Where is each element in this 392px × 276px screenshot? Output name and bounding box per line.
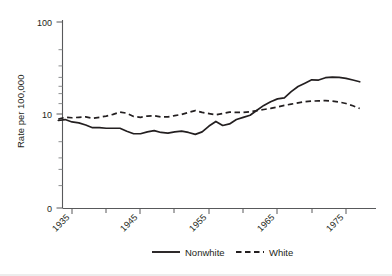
x-axis-ticks (72, 209, 346, 215)
legend-label-white: White (269, 247, 293, 258)
chart-plot-area: 100 10 0 1935 1945 1955 1965 1975 Rate p… (0, 0, 392, 276)
x-tick-label-1965: 1965 (255, 212, 276, 233)
x-tick-label-1945: 1945 (118, 212, 139, 233)
y-tick-label-0: 0 (47, 204, 52, 214)
x-tick-label-1955: 1955 (187, 212, 208, 233)
y-axis-ticks (57, 22, 63, 208)
legend-label-nonwhite: Nonwhite (185, 247, 225, 258)
series-line-white (58, 101, 359, 120)
chart-figure: 100 10 0 1935 1945 1955 1965 1975 Rate p… (0, 0, 392, 276)
series-line-nonwhite (58, 77, 359, 134)
y-tick-label-10: 10 (42, 110, 52, 120)
y-axis-title: Rate per 100,000 (15, 75, 26, 148)
x-tick-label-1975: 1975 (324, 212, 345, 233)
chart-legend: Nonwhite White (152, 247, 293, 258)
y-tick-label-100: 100 (37, 18, 52, 28)
x-tick-label-1935: 1935 (50, 212, 71, 233)
